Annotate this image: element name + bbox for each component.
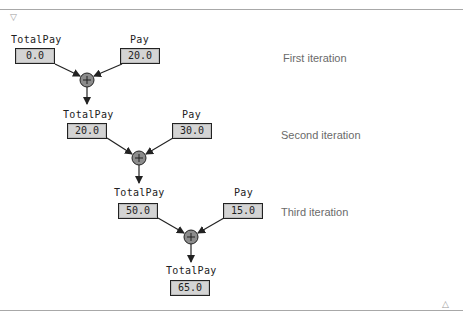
expand-triangle-icon: △ (442, 300, 449, 309)
plus-operator-icon (80, 73, 94, 87)
pay-label: Pay (182, 109, 201, 120)
pay-value-box: 20.0 (120, 48, 160, 64)
plus-operator-icon (184, 230, 198, 244)
pay-value-box: 30.0 (172, 123, 212, 139)
plus-operator-icon (132, 151, 146, 165)
pay-label: Pay (130, 34, 149, 45)
result-totalpay-label: TotalPay (166, 265, 217, 276)
bottom-rule (0, 310, 463, 311)
totalpay-value-box: 50.0 (118, 203, 158, 219)
iteration-caption: Third iteration (281, 206, 348, 218)
totalpay-value-box: 20.0 (67, 123, 107, 139)
totalpay-label: TotalPay (63, 109, 114, 120)
iteration-caption: First iteration (283, 52, 347, 64)
result-totalpay-value-box: 65.0 (170, 280, 210, 296)
pay-label: Pay (234, 187, 253, 198)
totalpay-label: TotalPay (114, 187, 165, 198)
iteration-caption: Second iteration (281, 129, 361, 141)
dataflow-wires (0, 0, 463, 316)
totalpay-label: TotalPay (11, 34, 62, 45)
totalpay-value-box: 0.0 (15, 48, 55, 64)
pay-value-box: 15.0 (223, 203, 263, 219)
